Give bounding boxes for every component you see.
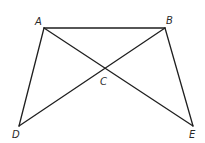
label-d: D bbox=[12, 129, 20, 140]
label-a: A bbox=[34, 16, 42, 27]
label-e: E bbox=[189, 129, 196, 140]
segment-ae bbox=[44, 28, 193, 126]
label-c: C bbox=[100, 76, 107, 87]
geometry-diagram: A B C D E bbox=[0, 0, 205, 143]
label-b: B bbox=[166, 15, 173, 26]
segment-be bbox=[165, 28, 193, 126]
